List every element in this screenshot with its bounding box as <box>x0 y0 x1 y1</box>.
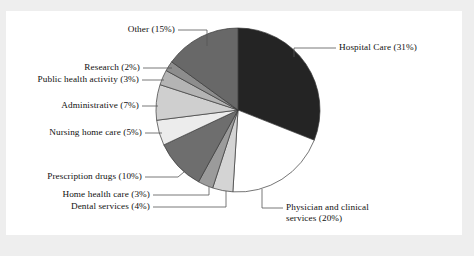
pie-chart: Hospital Care (31%) Physician and clinic… <box>0 0 474 256</box>
slice-label-prescription-drugs: Prescription drugs (10%) <box>0 171 142 183</box>
slice-label-hospital-care: Hospital Care (31%) <box>339 42 417 54</box>
slice-label-public-health-activity: Public health activity (3%) <box>0 74 139 86</box>
slice-label-nursing-home-care: Nursing home care (5%) <box>0 127 142 139</box>
slice-label-home-health-care: Home health care (3%) <box>0 189 150 201</box>
figure-page: Hospital Care (31%) Physician and clinic… <box>0 0 474 256</box>
slice-label-physician-line2: services (20%) <box>286 213 342 225</box>
leader-prescription-stub <box>178 172 184 177</box>
slice-label-physician-line1: Physician and clinical <box>286 202 369 214</box>
pie-slices <box>156 28 320 192</box>
slice-label-dental-services: Dental services (4%) <box>0 201 150 213</box>
slice-label-other: Other (15%) <box>0 24 175 36</box>
slice-label-administrative: Administrative (7%) <box>0 100 139 112</box>
slice-label-research: Research (2%) <box>0 62 140 74</box>
